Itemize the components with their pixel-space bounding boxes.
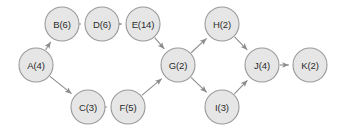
node-circle-f[interactable] [111,90,145,124]
node-k[interactable]: K(2) [293,48,327,82]
graph-canvas: A(4)B(6)D(6)E(14)C(3)F(5)G(2)H(2)I(3)J(4… [0,0,347,132]
node-e[interactable]: E(14) [126,7,160,41]
graph-svg: A(4)B(6)D(6)E(14)C(3)F(5)G(2)H(2)I(3)J(4… [0,0,347,132]
node-h[interactable]: H(2) [205,7,239,41]
node-circle-k[interactable] [293,48,327,82]
node-i[interactable]: I(3) [205,90,239,124]
edge-g-to-h [191,38,206,52]
node-f[interactable]: F(5) [111,90,145,124]
node-c[interactable]: C(3) [71,90,105,124]
node-circle-j[interactable] [245,48,279,82]
node-g[interactable]: G(2) [161,48,195,82]
edge-h-to-j [235,37,248,50]
edge-a-to-b [46,42,51,50]
node-circle-h[interactable] [205,7,239,41]
node-j[interactable]: J(4) [245,48,279,82]
node-circle-i[interactable] [205,90,239,124]
node-circle-d[interactable] [85,7,119,41]
node-d[interactable]: D(6) [85,7,119,41]
node-b[interactable]: B(6) [45,7,79,41]
edge-f-to-g [142,79,162,96]
node-circle-e[interactable] [126,7,160,41]
node-circle-g[interactable] [161,48,195,82]
node-circle-b[interactable] [45,7,79,41]
node-circle-a[interactable] [19,48,53,82]
edge-i-to-j [234,80,247,94]
node-circle-c[interactable] [71,90,105,124]
edge-g-to-i [191,77,207,92]
node-a[interactable]: A(4) [19,48,53,82]
edge-a-to-c [50,76,72,93]
edge-e-to-g [155,38,165,49]
